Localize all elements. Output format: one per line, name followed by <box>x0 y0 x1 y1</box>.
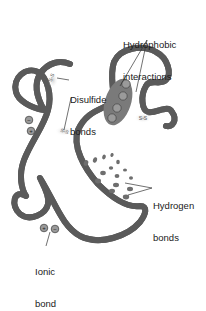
label-hydrophobic-interactions: Hydrophobic interactions <box>123 19 176 93</box>
svg-text:S-S: S-S <box>139 115 148 121</box>
hydrophobic-residue <box>108 114 116 122</box>
label-ionic-bond: Ionic bond <box>35 246 56 311</box>
hydrophobic-residue <box>113 104 121 112</box>
svg-text:−: − <box>53 226 57 232</box>
label-disulfide-bonds: Disulfide bonds <box>70 74 106 148</box>
svg-text:+: + <box>42 225 46 231</box>
ionic-bond-residues: + − <box>40 224 59 233</box>
svg-text:−: − <box>27 117 31 123</box>
disulfide-bridge-3: S-S <box>134 113 152 123</box>
svg-text:+: + <box>29 128 33 134</box>
label-hydrogen-bonds: Hydrogen bonds <box>153 180 194 254</box>
charged-residues-left: − + <box>25 116 35 135</box>
hydrophobic-residue <box>119 92 127 100</box>
